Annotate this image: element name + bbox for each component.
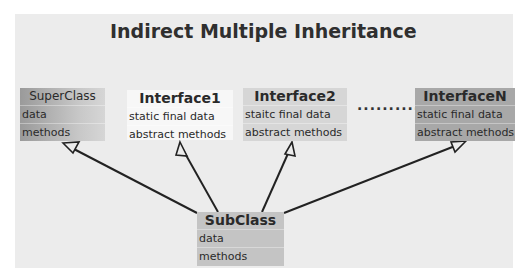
class-member: data: [20, 105, 105, 123]
class-box-subclass: SubClass data methods: [197, 212, 284, 266]
arrow-subclass-to-superclass: [70, 147, 197, 213]
arrowhead-icon: [285, 142, 295, 156]
ellipsis-separator: ..........: [357, 97, 420, 113]
arrow-subclass-to-interface2: [262, 149, 290, 212]
arrowhead-icon: [176, 142, 187, 156]
interface-member: abstract methods: [243, 123, 347, 141]
class-member: methods: [197, 247, 284, 265]
class-name: SuperClass: [20, 88, 105, 105]
arrow-subclass-to-interfaceN: [284, 146, 455, 213]
interface-member: staitc final data: [243, 105, 347, 123]
interface-member: abstract methods: [127, 125, 233, 143]
class-member: methods: [20, 123, 105, 141]
interface-member: abstract methods: [415, 123, 515, 141]
interface-box-interfaceN: InterfaceN static final data abstract me…: [415, 88, 515, 141]
class-box-superclass: SuperClass data methods: [20, 88, 105, 141]
class-member: data: [197, 229, 284, 247]
arrowhead-icon: [451, 141, 466, 152]
interface-member: static final data: [415, 105, 515, 123]
interface-name: InterfaceN: [415, 88, 515, 105]
interface-name: Interface2: [243, 88, 347, 105]
interface-member: static final data: [127, 107, 233, 125]
interface-box-interface2: Interface2 staitc final data abstract me…: [243, 88, 347, 141]
class-name: SubClass: [197, 212, 284, 229]
arrow-subclass-to-interface1: [182, 148, 218, 212]
interface-box-interface1: Interface1 static final data abstract me…: [127, 90, 233, 140]
interface-name: Interface1: [127, 90, 233, 107]
